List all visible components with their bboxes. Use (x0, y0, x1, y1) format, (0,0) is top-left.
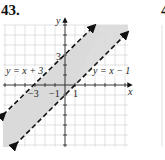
tick-label-x1: 1 (73, 88, 78, 99)
y-axis-label: y (55, 15, 61, 26)
tick-label-y3: 3 (56, 51, 61, 62)
x-axis-label: x (127, 86, 133, 97)
inequality-graph: y x 3 −3 −1 1 y = x + 3 y = x − 1 (0, 0, 165, 160)
tick-label-xm3: −3 (28, 88, 39, 99)
label-upper-line: y = x + 3 (5, 65, 43, 76)
tick-label-ym1: −1 (49, 88, 60, 99)
label-lower-line: y = x − 1 (92, 65, 130, 76)
